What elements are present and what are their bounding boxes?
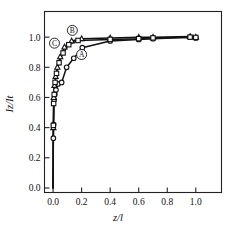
y-tick-label: 0.6 bbox=[29, 93, 41, 103]
marker-square bbox=[61, 51, 65, 55]
marker-square bbox=[67, 42, 71, 46]
x-axis-ticks bbox=[53, 188, 196, 193]
chart-canvas: 0.00.20.40.60.81.0 0.00.20.40.60.81.0 AB… bbox=[0, 0, 232, 229]
y-tick-label: 1.0 bbox=[29, 33, 41, 43]
data-markers-group bbox=[51, 34, 199, 141]
marker-square bbox=[51, 123, 55, 127]
marker-circle bbox=[71, 56, 76, 61]
curve-label-B: B bbox=[67, 25, 77, 35]
y-axis-title: Iz/It bbox=[4, 94, 15, 113]
marker-circle bbox=[54, 88, 59, 93]
marker-circle bbox=[59, 80, 64, 85]
x-tick-label: 1.0 bbox=[190, 197, 202, 207]
curve-label-text: B bbox=[70, 26, 75, 35]
marker-square bbox=[151, 36, 155, 40]
curve-label-text: A bbox=[79, 50, 85, 59]
x-axis-tick-labels: 0.00.20.40.60.81.0 bbox=[47, 197, 202, 207]
x-tick-label: 0.0 bbox=[47, 197, 59, 207]
marker-square bbox=[188, 35, 192, 39]
y-tick-label: 0.0 bbox=[29, 183, 41, 193]
marker-square bbox=[54, 71, 58, 75]
marker-circle bbox=[51, 136, 56, 141]
figure-container: 0.00.20.40.60.81.0 0.00.20.40.60.81.0 AB… bbox=[0, 0, 232, 229]
y-axis-tick-labels: 0.00.20.40.60.81.0 bbox=[29, 33, 41, 194]
x-tick-label: 0.6 bbox=[133, 197, 145, 207]
marker-square bbox=[52, 92, 56, 96]
marker-square bbox=[51, 101, 55, 105]
marker-square bbox=[76, 38, 80, 42]
marker-square bbox=[194, 35, 198, 39]
y-axis-ticks bbox=[45, 37, 50, 188]
curve-label-A: A bbox=[77, 49, 87, 59]
marker-square bbox=[57, 61, 61, 65]
marker-square bbox=[108, 37, 112, 41]
y-tick-label: 0.8 bbox=[29, 63, 41, 73]
y-tick-label: 0.4 bbox=[29, 123, 41, 133]
x-tick-label: 0.8 bbox=[161, 197, 173, 207]
marker-square bbox=[137, 36, 141, 40]
marker-circle bbox=[64, 65, 69, 70]
marker-square bbox=[53, 80, 57, 84]
curve-label-C: C bbox=[49, 38, 59, 48]
curve-label-text: C bbox=[52, 39, 57, 48]
x-tick-label: 0.2 bbox=[76, 197, 88, 207]
y-tick-label: 0.2 bbox=[29, 153, 41, 163]
x-tick-label: 0.4 bbox=[104, 197, 116, 207]
x-axis-title: z/l bbox=[112, 212, 123, 223]
